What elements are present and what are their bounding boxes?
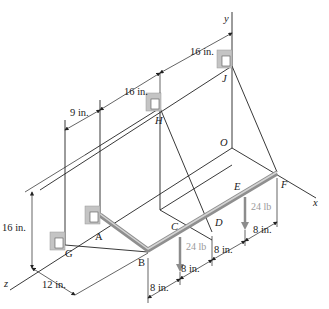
- point-B-label: B: [138, 257, 145, 268]
- cable-GB: [65, 245, 148, 252]
- point-J-label: J: [222, 73, 228, 84]
- point-C-label: C: [171, 221, 179, 232]
- svg-text:9 in.: 9 in.: [70, 107, 89, 118]
- point-E-label: E: [233, 181, 241, 192]
- point-D-label: D: [214, 217, 223, 228]
- svg-text:8 in.: 8 in.: [253, 224, 272, 235]
- guide-line: [85, 108, 160, 155]
- bracket-G: [50, 232, 65, 250]
- z-axis-label: z: [3, 278, 8, 289]
- bracket-A: [85, 206, 100, 224]
- svg-text:16 in.: 16 in.: [190, 46, 214, 57]
- svg-text:8 in.: 8 in.: [181, 263, 200, 274]
- diagram-stage: 24 lb 24 lb 8 in. 8 in. 8 in. 8 in. 12 i…: [0, 0, 329, 309]
- svg-text:8 in.: 8 in.: [214, 244, 233, 255]
- svg-text:24 lb: 24 lb: [251, 201, 271, 212]
- origin-label: O: [220, 137, 228, 148]
- point-G-label: G: [65, 248, 73, 259]
- svg-text:24 lb: 24 lb: [186, 241, 206, 252]
- y-axis-label: y: [223, 13, 229, 24]
- cable-JF: [232, 66, 277, 172]
- point-A-label: A: [95, 231, 103, 242]
- svg-text:16 in.: 16 in.: [124, 86, 148, 97]
- point-H-label: H: [154, 115, 164, 126]
- point-F-label: F: [280, 179, 288, 190]
- svg-text:8 in.: 8 in.: [150, 282, 169, 293]
- bracket-H: [146, 93, 161, 111]
- cable-HD: [160, 108, 212, 232]
- svg-text:12 in.: 12 in.: [42, 279, 66, 290]
- pipe-assembly-diagram: 24 lb 24 lb 8 in. 8 in. 8 in. 8 in. 12 i…: [0, 0, 329, 309]
- svg-text:16 in.: 16 in.: [2, 222, 26, 233]
- bracket-J: [217, 50, 232, 68]
- x-axis-label: x: [312, 197, 318, 208]
